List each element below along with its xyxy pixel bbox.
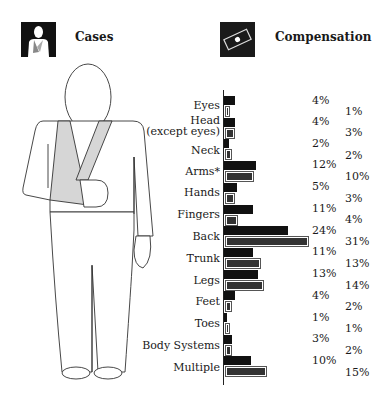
compensation-bar-legs [226,281,263,290]
compensation-bar-eyes [226,107,229,116]
compensation-bar-back [226,237,308,246]
cases-bar-hands [224,183,237,192]
row-label-body-systems: Body Systems [142,340,220,351]
compensation-title: Compensation [275,30,371,44]
cases-bar-back [224,226,288,235]
row-label-trunk: Trunk [187,253,220,264]
cases-bar-trunk [224,248,253,257]
compensation-bar-neck [226,150,231,159]
comp-pct-fingers: 4% [345,214,362,225]
cases-pct-legs: 13% [312,268,336,279]
row-label-fingers: Fingers [177,209,220,220]
comp-pct-eyes: 1% [345,106,362,117]
cases-bar-neck [224,139,229,148]
comp-pct-multiple: 15% [345,367,369,378]
cases-bar-eyes [224,96,235,105]
comp-pct-feet: 2% [345,301,362,312]
comp-pct-body-systems: 2% [345,345,362,356]
cases-pct-fingers: 11% [312,203,336,214]
compensation-bar-fingers [226,216,237,225]
cases-bar-feet [224,291,235,300]
cases-pct-body-systems: 3% [312,333,329,344]
comp-pct-legs: 14% [345,280,369,291]
cases-pct-arms: 12% [312,159,336,170]
row-label-back: Back [193,231,220,242]
compensation-bar-hands [226,194,234,203]
row-label-arms: Arms* [185,166,220,177]
row-label-eyes: Eyes [194,100,220,111]
compensation-bar-head-except-eyes [226,129,234,138]
cases-bar-head-except-eyes [224,118,235,127]
comp-pct-back: 31% [345,236,369,247]
row-label-toes: Toes [195,318,220,329]
compensation-bar-arms [226,172,253,181]
cases-bar-multiple [224,356,251,365]
cases-pct-head: 4% [312,116,329,127]
compensation-bar-trunk [226,259,260,268]
row-label-head-sub: (except eyes) [146,126,220,137]
money-bill-icon [220,22,255,57]
row-label-neck: Neck [191,145,220,156]
cases-pct-feet: 4% [312,290,329,301]
row-label-hands: Hands [184,187,220,198]
cases-bar-body-systems [224,335,232,344]
cases-pct-back: 24% [312,225,336,236]
row-label-feet: Feet [196,296,220,307]
cases-pct-multiple: 10% [312,355,336,366]
row-label-multiple: Multiple [173,362,220,373]
compensation-bar-body-systems [226,346,231,355]
cases-pct-toes: 1% [312,312,329,323]
compensation-bar-feet [226,302,231,311]
comp-pct-toes: 1% [345,323,362,334]
compensation-bar-toes [226,324,229,333]
cases-pct-eyes: 4% [312,95,329,106]
cases-bar-legs [224,270,258,279]
cases-pct-hands: 5% [312,181,329,192]
comp-pct-trunk: 13% [345,258,369,269]
cases-bar-arms [224,161,256,170]
comp-pct-hands: 3% [345,193,362,204]
cases-bar-toes [224,313,227,322]
row-label-legs: Legs [193,275,220,286]
cases-bar-fingers [224,205,253,214]
cases-pct-trunk: 11% [312,246,336,257]
compensation-bar-multiple [226,367,266,376]
comp-pct-neck: 2% [345,150,362,161]
comp-pct-head: 3% [345,127,362,138]
comp-pct-arms: 10% [345,171,369,182]
cases-pct-neck: 2% [312,138,329,149]
